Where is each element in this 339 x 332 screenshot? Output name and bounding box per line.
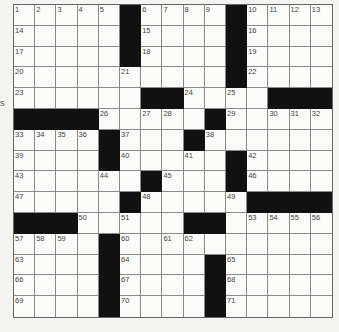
grid-cell[interactable]: 60 xyxy=(120,234,141,255)
grid-cell[interactable] xyxy=(311,47,332,68)
grid-cell[interactable]: 30 xyxy=(268,109,289,130)
grid-cell[interactable] xyxy=(162,192,183,213)
grid-cell[interactable] xyxy=(78,67,99,88)
grid-cell[interactable]: 29 xyxy=(226,109,247,130)
grid-cell[interactable] xyxy=(184,171,205,192)
grid-cell[interactable]: 69 xyxy=(14,296,35,317)
grid-cell[interactable]: 55 xyxy=(290,213,311,234)
grid-cell[interactable] xyxy=(162,275,183,296)
grid-cell[interactable] xyxy=(268,171,289,192)
grid-cell[interactable]: 27 xyxy=(141,109,162,130)
grid-cell[interactable] xyxy=(78,88,99,109)
grid-cell[interactable]: 14 xyxy=(14,26,35,47)
grid-cell[interactable] xyxy=(268,255,289,276)
grid-cell[interactable]: 12 xyxy=(290,5,311,26)
grid-cell[interactable] xyxy=(184,109,205,130)
grid-cell[interactable]: 1 xyxy=(14,5,35,26)
grid-cell[interactable]: 17 xyxy=(14,47,35,68)
grid-cell[interactable]: 26 xyxy=(99,109,120,130)
grid-cell[interactable] xyxy=(247,88,268,109)
grid-cell[interactable] xyxy=(35,151,56,172)
grid-cell[interactable]: 58 xyxy=(35,234,56,255)
grid-cell[interactable]: 38 xyxy=(205,130,226,151)
grid-cell[interactable] xyxy=(247,275,268,296)
grid-cell[interactable]: 33 xyxy=(14,130,35,151)
grid-cell[interactable] xyxy=(120,88,141,109)
grid-cell[interactable]: 34 xyxy=(35,130,56,151)
grid-cell[interactable]: 35 xyxy=(56,130,77,151)
grid-cell[interactable] xyxy=(78,192,99,213)
grid-cell[interactable] xyxy=(290,171,311,192)
grid-cell[interactable] xyxy=(290,151,311,172)
grid-cell[interactable] xyxy=(247,130,268,151)
grid-cell[interactable] xyxy=(268,67,289,88)
grid-cell[interactable]: 24 xyxy=(184,88,205,109)
grid-cell[interactable]: 56 xyxy=(311,213,332,234)
grid-cell[interactable] xyxy=(35,88,56,109)
grid-cell[interactable]: 22 xyxy=(247,67,268,88)
grid-cell[interactable] xyxy=(290,47,311,68)
grid-cell[interactable]: 7 xyxy=(162,5,183,26)
grid-cell[interactable]: 36 xyxy=(78,130,99,151)
grid-cell[interactable]: 2 xyxy=(35,5,56,26)
grid-cell[interactable]: 43 xyxy=(14,171,35,192)
grid-cell[interactable] xyxy=(99,213,120,234)
grid-cell[interactable]: 41 xyxy=(184,151,205,172)
grid-cell[interactable] xyxy=(226,130,247,151)
grid-cell[interactable] xyxy=(247,296,268,317)
grid-cell[interactable]: 28 xyxy=(162,109,183,130)
grid-cell[interactable] xyxy=(141,213,162,234)
grid-cell[interactable] xyxy=(78,296,99,317)
grid-cell[interactable] xyxy=(120,109,141,130)
grid-cell[interactable] xyxy=(56,151,77,172)
grid-cell[interactable] xyxy=(311,151,332,172)
grid-cell[interactable] xyxy=(290,275,311,296)
grid-cell[interactable] xyxy=(78,234,99,255)
grid-cell[interactable] xyxy=(311,67,332,88)
grid-cell[interactable] xyxy=(99,47,120,68)
grid-cell[interactable] xyxy=(290,67,311,88)
grid-cell[interactable]: 64 xyxy=(120,255,141,276)
grid-cell[interactable] xyxy=(184,67,205,88)
grid-cell[interactable] xyxy=(184,192,205,213)
grid-cell[interactable]: 54 xyxy=(268,213,289,234)
grid-cell[interactable] xyxy=(78,26,99,47)
grid-cell[interactable] xyxy=(56,171,77,192)
grid-cell[interactable] xyxy=(35,171,56,192)
grid-cell[interactable] xyxy=(162,151,183,172)
grid-cell[interactable]: 25 xyxy=(226,88,247,109)
grid-cell[interactable] xyxy=(56,67,77,88)
grid-cell[interactable] xyxy=(56,255,77,276)
grid-cell[interactable] xyxy=(35,275,56,296)
grid-cell[interactable]: 71 xyxy=(226,296,247,317)
grid-cell[interactable] xyxy=(120,171,141,192)
grid-cell[interactable]: 6 xyxy=(141,5,162,26)
grid-cell[interactable] xyxy=(162,255,183,276)
grid-cell[interactable]: 23 xyxy=(14,88,35,109)
grid-cell[interactable] xyxy=(290,26,311,47)
grid-cell[interactable] xyxy=(35,255,56,276)
grid-cell[interactable] xyxy=(205,26,226,47)
grid-cell[interactable] xyxy=(226,234,247,255)
grid-cell[interactable]: 16 xyxy=(247,26,268,47)
grid-cell[interactable]: 61 xyxy=(162,234,183,255)
grid-cell[interactable] xyxy=(56,192,77,213)
grid-cell[interactable]: 50 xyxy=(78,213,99,234)
grid-cell[interactable]: 15 xyxy=(141,26,162,47)
grid-cell[interactable] xyxy=(141,67,162,88)
grid-cell[interactable]: 70 xyxy=(120,296,141,317)
grid-cell[interactable] xyxy=(205,67,226,88)
grid-cell[interactable] xyxy=(141,151,162,172)
grid-cell[interactable] xyxy=(311,130,332,151)
grid-cell[interactable] xyxy=(290,255,311,276)
grid-cell[interactable] xyxy=(311,234,332,255)
grid-cell[interactable]: 37 xyxy=(120,130,141,151)
grid-cell[interactable]: 66 xyxy=(14,275,35,296)
grid-cell[interactable]: 3 xyxy=(56,5,77,26)
grid-cell[interactable] xyxy=(141,275,162,296)
grid-cell[interactable] xyxy=(78,171,99,192)
grid-cell[interactable]: 65 xyxy=(226,255,247,276)
grid-cell[interactable] xyxy=(205,192,226,213)
grid-cell[interactable] xyxy=(268,296,289,317)
grid-cell[interactable] xyxy=(78,151,99,172)
